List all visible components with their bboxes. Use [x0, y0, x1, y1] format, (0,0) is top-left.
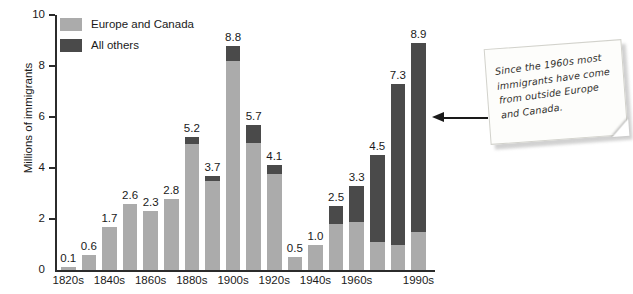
bar-1820s — [61, 267, 76, 270]
legend-item-europe-canada: Europe and Canada — [60, 17, 194, 31]
bar-segment-all-others — [370, 155, 385, 242]
legend-swatch-all-others — [60, 39, 82, 52]
x-label-1840s: 1840s — [94, 274, 125, 286]
y-tick-label-2: 2 — [19, 213, 45, 225]
bar-1980s — [391, 84, 406, 270]
bar-segment-europe-canada — [370, 242, 385, 270]
bar-1850s — [123, 204, 138, 270]
bar-1970s — [370, 155, 385, 270]
y-tick-4 — [49, 167, 55, 169]
y-tick-label-0: 0 — [19, 264, 45, 276]
bar-segment-europe-canada — [308, 245, 323, 271]
bar-1860s — [143, 211, 158, 270]
left-arrow-icon — [432, 112, 488, 123]
bar-1880s — [185, 137, 200, 270]
callout-curl-corner — [611, 119, 629, 137]
bar-segment-europe-canada — [102, 227, 117, 270]
immigration-bar-chart: 0246810 Millions of immigrants Europe an… — [0, 0, 633, 294]
bar-1900s — [226, 46, 241, 270]
x-label-1940s: 1940s — [300, 274, 331, 286]
bar-value-1950s: 2.5 — [328, 191, 344, 203]
bar-1840s — [102, 227, 117, 270]
legend-label-europe-canada: Europe and Canada — [91, 18, 194, 31]
bar-segment-europe-canada — [267, 174, 282, 270]
bar-segment-europe-canada — [143, 211, 158, 270]
bar-value-1860s: 2.3 — [143, 196, 159, 208]
bar-segment-europe-canada — [164, 199, 179, 270]
bar-value-1880s: 5.2 — [184, 122, 200, 134]
bar-segment-europe-canada — [123, 204, 138, 270]
bar-value-1960s: 3.3 — [349, 171, 365, 183]
y-tick-6 — [49, 116, 55, 118]
bar-segment-europe-canada — [288, 257, 303, 270]
bar-1990s — [411, 43, 426, 270]
bar-1950s — [329, 206, 344, 270]
bar-1890s — [205, 176, 220, 270]
bar-segment-europe-canada — [226, 61, 241, 270]
bar-1920s — [267, 165, 282, 270]
bar-1870s — [164, 199, 179, 270]
bar-segment-europe-canada — [329, 224, 344, 270]
y-axis-line — [55, 15, 57, 271]
x-label-1860s: 1860s — [135, 274, 166, 286]
bar-value-1970s: 4.5 — [369, 140, 385, 152]
bar-segment-europe-canada — [185, 144, 200, 270]
bar-segment-all-others — [329, 206, 344, 224]
y-tick-8 — [49, 65, 55, 67]
legend-item-all-others: All others — [60, 38, 194, 52]
legend-swatch-europe-canada — [60, 18, 82, 31]
bar-segment-europe-canada — [82, 255, 97, 270]
callout-note: Since the 1960s most immigrants have com… — [484, 39, 629, 145]
bar-segment-all-others — [391, 84, 406, 245]
bar-segment-all-others — [267, 165, 282, 174]
bar-value-1930s: 0.5 — [287, 242, 303, 254]
bar-value-1890s: 3.7 — [204, 161, 220, 173]
bar-segment-europe-canada — [246, 143, 261, 271]
arrow-head — [432, 112, 444, 122]
bar-value-1940s: 1.0 — [307, 230, 323, 242]
bar-segment-europe-canada — [411, 232, 426, 270]
legend-label-all-others: All others — [91, 39, 139, 52]
bar-value-1870s: 2.8 — [163, 184, 179, 196]
bar-segment-all-others — [411, 43, 426, 232]
y-axis-title: Millions of immigrants — [22, 38, 34, 198]
x-label-1820s: 1820s — [53, 274, 84, 286]
x-label-1900s: 1900s — [217, 274, 248, 286]
y-tick-10 — [49, 14, 55, 16]
bar-segment-all-others — [349, 186, 364, 222]
bar-segment-all-others — [226, 46, 241, 61]
bar-value-1980s: 7.3 — [390, 69, 406, 81]
bar-value-1920s: 4.1 — [266, 150, 282, 162]
bar-value-1850s: 2.6 — [122, 189, 138, 201]
bar-segment-all-others — [246, 125, 261, 143]
bar-value-1830s: 0.6 — [81, 240, 97, 252]
bar-1940s — [308, 245, 323, 271]
chart-legend: Europe and Canada All others — [60, 17, 194, 59]
bar-segment-europe-canada — [61, 267, 76, 270]
bar-1830s — [82, 255, 97, 270]
x-axis-line — [55, 270, 435, 272]
arrow-shaft — [442, 117, 488, 119]
bar-value-1820s: 0.1 — [60, 252, 76, 264]
bar-segment-europe-canada — [349, 222, 364, 270]
x-label-1920s: 1920s — [259, 274, 290, 286]
bar-segment-europe-canada — [205, 181, 220, 270]
y-tick-2 — [49, 218, 55, 220]
bar-value-1910s: 5.7 — [246, 110, 262, 122]
y-tick-label-10: 10 — [19, 9, 45, 21]
bar-value-1840s: 1.7 — [101, 212, 117, 224]
bar-value-1900s: 8.8 — [225, 31, 241, 43]
bar-value-1990s: 8.9 — [410, 28, 426, 40]
bar-1930s — [288, 257, 303, 270]
bar-segment-europe-canada — [391, 245, 406, 271]
bar-1960s — [349, 186, 364, 270]
x-label-1880s: 1880s — [176, 274, 207, 286]
x-label-1960s: 1960s — [341, 274, 372, 286]
x-label-1990s: 1990s — [403, 274, 434, 286]
bar-1910s — [246, 125, 261, 270]
